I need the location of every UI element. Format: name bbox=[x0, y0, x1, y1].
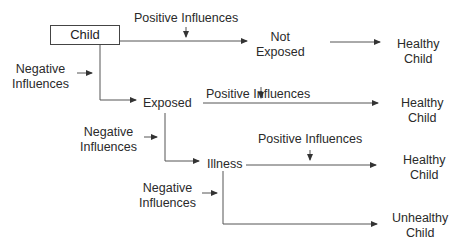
child-node: Child bbox=[50, 25, 120, 45]
outcome-unhealthy-child: Unhealthy Child bbox=[392, 211, 448, 241]
exposed-node: Exposed bbox=[143, 96, 192, 111]
positive-influences-label-3: Positive Influences bbox=[258, 132, 362, 147]
child-label: Child bbox=[70, 27, 100, 42]
negative-influences-label-3: Negative Influences bbox=[139, 181, 196, 211]
positive-influences-label-2: Positive Influences bbox=[206, 87, 310, 102]
illness-node: Illness bbox=[207, 157, 242, 172]
negative-influences-label-2: Negative Influences bbox=[80, 125, 137, 155]
outcome-healthy-child-1: Healthy Child bbox=[397, 37, 439, 67]
not-exposed-node: Not Exposed bbox=[256, 30, 305, 60]
outcome-healthy-child-2: Healthy Child bbox=[401, 96, 443, 126]
outcome-healthy-child-3: Healthy Child bbox=[403, 153, 445, 183]
negative-influences-label-1: Negative Influences bbox=[12, 62, 69, 92]
positive-influences-label-1: Positive Influences bbox=[134, 11, 238, 26]
